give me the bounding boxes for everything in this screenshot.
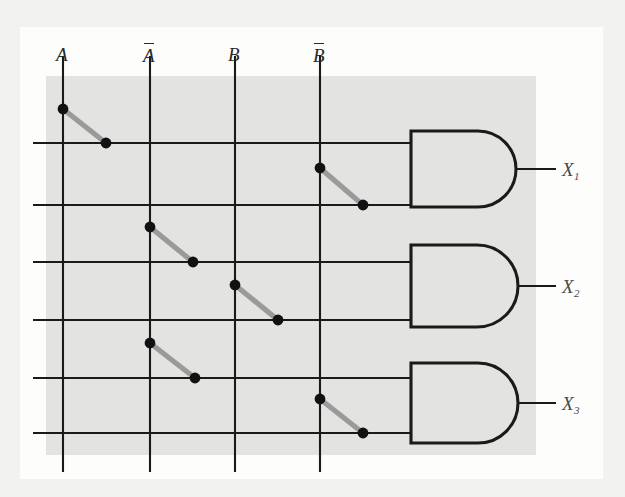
input-label-Bn: B [313,45,325,65]
overline-bar: A [143,45,155,65]
fuse-4-link [235,285,278,320]
fuse-4-dot-source [230,280,241,291]
output-subscript: 3 [574,404,580,416]
fuse-3-dot-source [145,222,156,233]
fuse-6-dot-target [358,428,369,439]
fuse-1-dot-source [58,104,69,115]
input-label-A: A [56,45,68,64]
output-subscript: 1 [574,170,580,182]
fuse-5-dot-target [190,373,201,384]
output-subscript: 2 [574,287,580,299]
fuse-5-link [150,343,195,378]
overline-bar: B [313,45,325,65]
input-label-An: A [143,45,155,65]
pla-diagram-figure: AABB X1X2X3 [0,0,625,497]
fuse-3-dot-target [188,257,199,268]
fuse-1-dot-target [101,138,112,149]
and-gate-group [411,131,556,443]
fuse-2-dot-target [358,200,369,211]
fuse-4-dot-target [273,315,284,326]
fuse-2-link [320,168,363,205]
fuse-5-dot-source [145,338,156,349]
gate-2 [411,245,518,327]
gate-3 [411,363,518,443]
output-label-X3: X3 [562,394,579,413]
fuse-6-dot-source [315,394,326,405]
fuse-3-link [150,227,193,262]
fuse-1-link [63,109,106,143]
fuse-link-group [58,104,369,439]
fuse-2-dot-source [315,163,326,174]
fuse-6-link [320,399,363,433]
output-label-X2: X2 [562,277,579,296]
product-line-group [33,143,411,433]
circuit-canvas [0,0,625,497]
input-label-B: B [228,45,240,64]
gate-1 [411,131,516,207]
output-label-X1: X1 [562,160,579,179]
